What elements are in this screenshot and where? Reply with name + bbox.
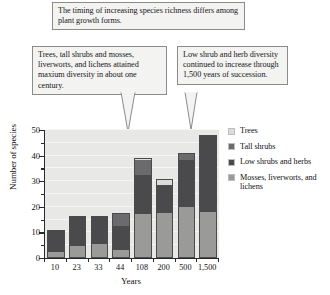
- legend: TreesTall shrubsLow shrubs and herbsMoss…: [228, 126, 330, 198]
- legend-item[interactable]: Trees: [228, 126, 330, 136]
- bar-segment: [92, 217, 107, 244]
- x-tick-mark: [109, 258, 110, 262]
- y-tick-label: 40: [18, 151, 40, 161]
- x-tick-mark: [88, 258, 89, 262]
- bar-segment: [113, 226, 128, 249]
- figure-root: The timing of increasing species richnes…: [0, 0, 330, 295]
- bar-group: [45, 130, 219, 258]
- bar-segment: [70, 217, 85, 246]
- x-tick-label: 10: [51, 263, 59, 272]
- legend-label: Tall shrubs: [240, 142, 276, 152]
- bar-segment: [200, 212, 215, 257]
- x-tick-mark: [66, 258, 67, 262]
- bar-segment: [48, 252, 63, 257]
- legend-item[interactable]: Low shrubs and herbs: [228, 157, 330, 167]
- legend-swatch: [228, 143, 235, 150]
- callout-box-left: Trees, tall shrubs and mosses, liverwort…: [32, 46, 167, 95]
- bar-segment: [70, 246, 85, 257]
- x-tick-label: 44: [116, 263, 124, 272]
- bar-segment: [113, 250, 128, 257]
- bar-segment: [135, 214, 150, 257]
- bar[interactable]: [178, 153, 195, 258]
- bar[interactable]: [156, 179, 173, 258]
- bar-segment: [179, 207, 194, 257]
- y-tick-label: 20: [18, 202, 40, 212]
- x-tick-label: 23: [73, 263, 81, 272]
- bar-segment: [113, 214, 128, 226]
- x-tick-mark: [131, 258, 132, 262]
- legend-label: Low shrubs and herbs: [240, 157, 311, 167]
- bar-segment: [179, 160, 194, 206]
- y-tick-label: 30: [18, 176, 40, 186]
- callout-box-top: The timing of increasing species richnes…: [52, 2, 245, 30]
- x-tick-label: 500: [179, 263, 191, 272]
- x-tick-mark: [196, 258, 197, 262]
- legend-swatch: [228, 174, 235, 181]
- legend-swatch: [228, 128, 235, 135]
- bar[interactable]: [91, 216, 108, 258]
- y-tick-label: 50: [18, 125, 40, 135]
- x-tick-mark: [153, 258, 154, 262]
- plot-area: [44, 130, 219, 259]
- bar[interactable]: [112, 213, 129, 258]
- x-axis: 102333441082005001,500: [44, 258, 218, 278]
- bar-segment: [157, 213, 172, 257]
- bar-segment: [135, 160, 150, 175]
- bar[interactable]: [134, 158, 151, 258]
- x-tick-mark: [175, 258, 176, 262]
- legend-item[interactable]: Tall shrubs: [228, 142, 330, 152]
- bar-segment: [92, 244, 107, 257]
- bar-segment: [200, 136, 215, 212]
- bar[interactable]: [199, 135, 216, 258]
- x-tick-mark: [218, 258, 219, 262]
- x-tick-label: 33: [94, 263, 102, 272]
- y-axis: 01020304050: [0, 118, 44, 258]
- bar-segment: [48, 231, 63, 252]
- bar[interactable]: [47, 230, 64, 258]
- x-axis-label: Years: [44, 276, 218, 286]
- legend-label: Mosses, liverworts, and lichens: [240, 173, 330, 192]
- legend-swatch: [228, 159, 235, 166]
- x-tick-label: 1,500: [198, 263, 216, 272]
- y-tick-label: 10: [18, 227, 40, 237]
- x-tick-label: 108: [136, 263, 148, 272]
- y-tick-label: 0: [18, 253, 40, 263]
- x-tick-mark: [44, 258, 45, 262]
- bar-segment: [157, 185, 172, 214]
- legend-item[interactable]: Mosses, liverworts, and lichens: [228, 173, 330, 192]
- legend-label: Trees: [240, 126, 258, 136]
- callout-box-right: Low shrub and herb diversity continued t…: [177, 46, 288, 85]
- bar[interactable]: [69, 216, 86, 258]
- x-tick-label: 200: [157, 263, 169, 272]
- bar-segment: [135, 175, 150, 214]
